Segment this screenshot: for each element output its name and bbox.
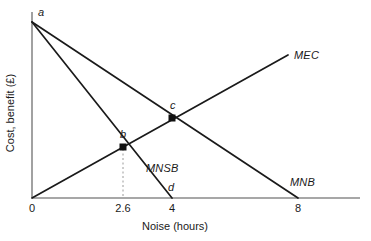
series-line-mec xyxy=(32,55,288,198)
point-label-c: c xyxy=(170,100,176,111)
x-axis-title: Noise (hours) xyxy=(142,221,208,232)
series-label-mec: MEC xyxy=(294,50,319,61)
y-axis-title: Cost, benefit (£) xyxy=(2,58,18,168)
y-axis-title-text: Cost, benefit (£) xyxy=(4,74,16,152)
point-label-a: a xyxy=(38,7,44,18)
series-label-mnb: MNB xyxy=(290,177,315,188)
point-marker-b xyxy=(120,144,127,151)
chart-canvas xyxy=(0,0,371,241)
x-tick-label-4: 4 xyxy=(164,203,180,214)
x-tick-label-0: 0 xyxy=(24,203,40,214)
x-tick-label-2-6: 2.6 xyxy=(109,203,137,214)
series-label-mnsb: MNSB xyxy=(146,163,179,174)
x-tick-label-8: 8 xyxy=(290,203,306,214)
noise-externality-chart: Cost, benefit (£) Noise (hours) 0 2.6 4 … xyxy=(0,0,371,241)
point-label-b: b xyxy=(120,129,126,140)
point-label-d: d xyxy=(168,182,174,193)
point-marker-c xyxy=(169,115,176,122)
